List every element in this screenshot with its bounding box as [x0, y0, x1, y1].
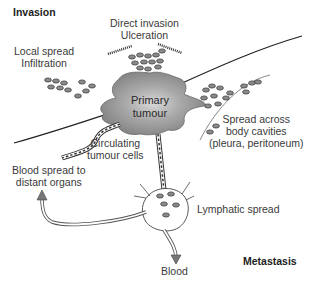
primary-tumour-label: Primary tumour — [131, 94, 169, 120]
blood-label: Blood — [161, 265, 188, 277]
blood-spread-arrow — [37, 190, 146, 224]
local-spread-label: Local spread Infiltration — [14, 45, 74, 69]
metastasis-heading: Metastasis — [243, 255, 297, 267]
lymphatic-spread-label: Lymphatic spread — [197, 203, 280, 215]
lymph-node — [134, 182, 194, 231]
spread-cavities-label: Spread across body cavities (pleura, per… — [209, 113, 304, 149]
ulceration-cells — [129, 49, 166, 71]
blood-spread-label: Blood spread to distant organs — [12, 164, 86, 188]
ulceration-icon — [108, 44, 182, 54]
circulating-cells-label: Circulating tumour cells — [87, 137, 144, 161]
lymphatic-vessel — [158, 134, 164, 190]
local-spread-cells — [45, 78, 96, 98]
blood-arrow-down — [164, 230, 181, 264]
invasion-heading: Invasion — [13, 6, 56, 18]
direct-invasion-label: Direct invasion Ulceration — [110, 17, 179, 41]
